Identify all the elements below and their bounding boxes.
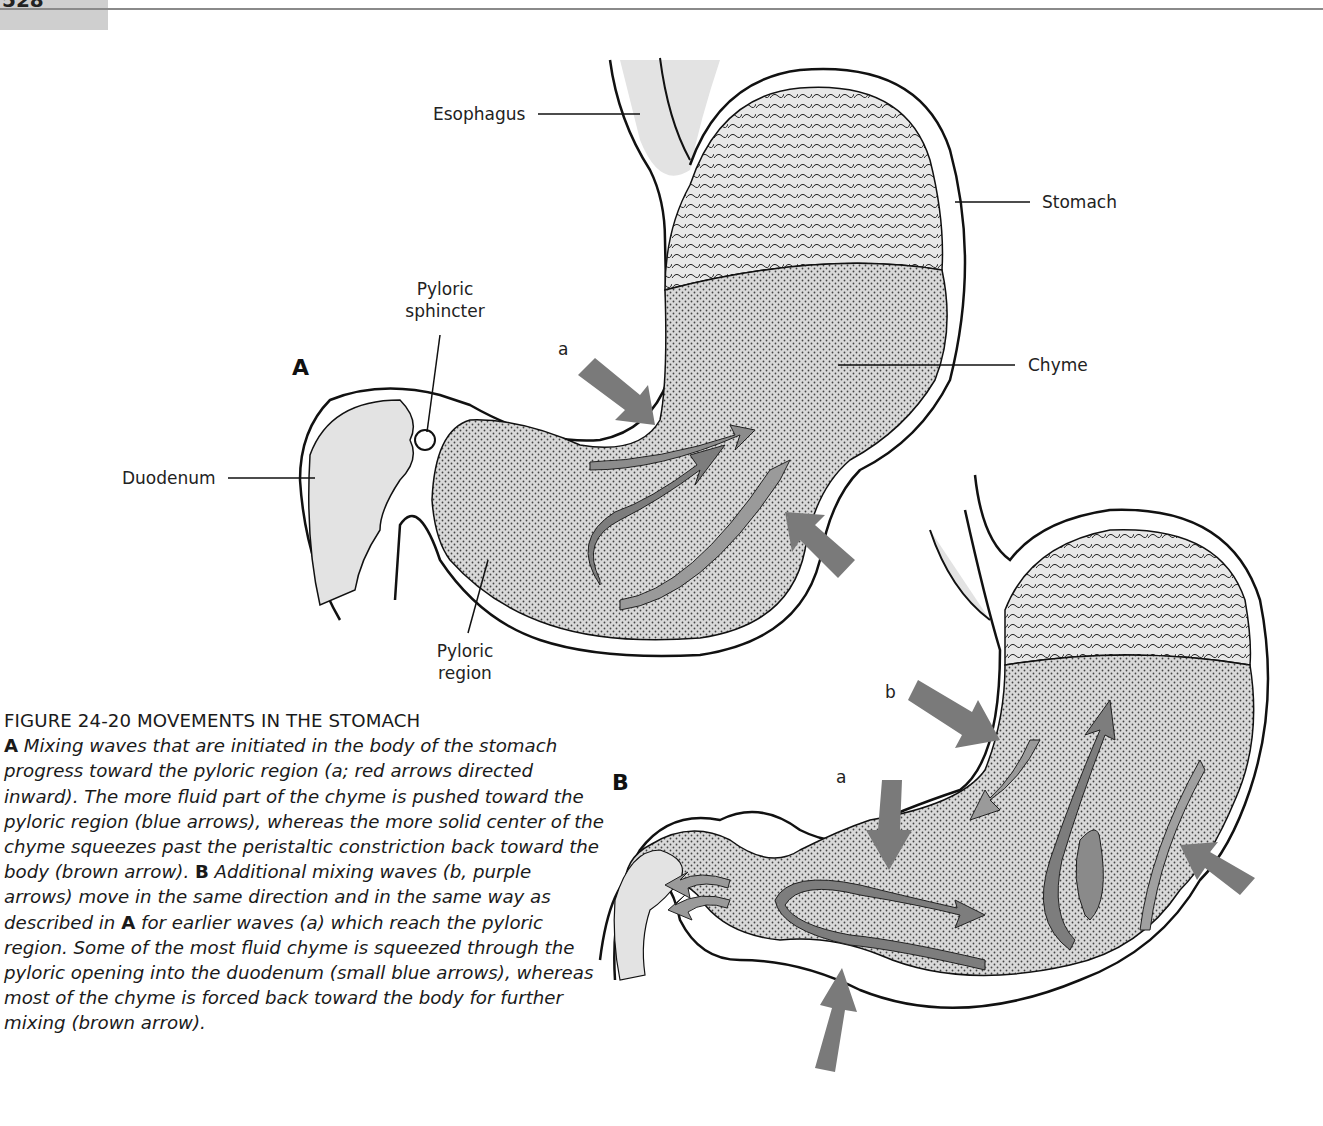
label-wave-a-panel-b: a [836,767,846,787]
caption-marker-a: A [4,735,18,756]
label-duodenum: Duodenum [122,467,216,489]
panel-b-marker: B [612,770,629,795]
label-esophagus: Esophagus [433,103,525,125]
figure-caption-body: A Mixing waves that are initiated in the… [4,733,604,1035]
caption-ref-a: A [121,912,135,933]
panel-a-marker: A [292,355,309,380]
label-pyloric-sphincter: Pyloric sphincter [400,278,490,322]
label-pyloric-region: Pyloric region [425,640,505,684]
label-pyloric-region-line1: Pyloric [425,640,505,662]
label-pyloric-region-line2: region [425,662,505,684]
figure-title: FIGURE 24-20 MOVEMENTS IN THE STOMACH [4,708,604,733]
wave-b-arrow-icon [908,680,1000,748]
label-pyloric-sphincter-line1: Pyloric [400,278,490,300]
wave-a-arrow-icon [578,358,655,425]
figure-caption: FIGURE 24-20 MOVEMENTS IN THE STOMACH A … [4,708,604,1036]
label-chyme: Chyme [1028,354,1088,376]
label-stomach: Stomach [1042,191,1117,213]
label-pyloric-sphincter-line2: sphincter [400,300,490,322]
label-wave-b: b [885,682,896,702]
label-wave-a-panel-a: a [558,339,568,359]
wave-arrow-bottom-icon [815,968,857,1072]
panel-a-stomach [300,58,965,656]
caption-marker-b: B [195,861,209,882]
